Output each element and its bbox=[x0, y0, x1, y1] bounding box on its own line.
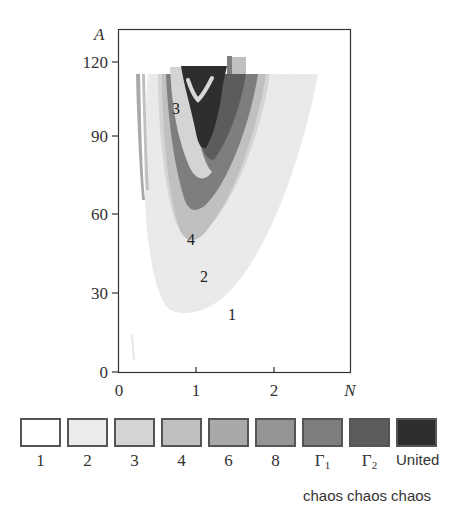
y-tick-120: 120 bbox=[83, 53, 109, 72]
chaos-label-united: chaos bbox=[391, 487, 431, 504]
gamma-subscript: 2 bbox=[372, 459, 378, 471]
legend-swatch-2 bbox=[67, 418, 108, 447]
x-axis bbox=[196, 367, 274, 372]
legend-swatch-3 bbox=[114, 418, 155, 447]
legend-swatch-6 bbox=[208, 418, 249, 447]
legend-label-8: 8 bbox=[255, 451, 296, 471]
annotation-3: 3 bbox=[172, 100, 180, 117]
legend-label-4: 4 bbox=[161, 451, 202, 471]
y-tick-60: 60 bbox=[91, 205, 108, 224]
gamma-subscript: 1 bbox=[325, 459, 331, 471]
legend: 1 2 3 4 6 8 Γ1 Γ2 United bbox=[20, 418, 476, 471]
legend-swatch-1 bbox=[20, 418, 61, 447]
legend-label-1: 1 bbox=[20, 451, 61, 471]
y-tick-90: 90 bbox=[91, 127, 108, 146]
chart: 120 90 60 30 0 A 0 1 2 N 3 4 2 1 bbox=[0, 0, 476, 405]
legend-swatch-gamma2 bbox=[349, 418, 390, 447]
legend-swatch-united bbox=[396, 418, 437, 447]
legend-swatches bbox=[20, 418, 476, 447]
y-axis-title: A bbox=[93, 25, 105, 44]
chaos-label-gamma1: chaos bbox=[303, 487, 343, 504]
legend-label-gamma2: Γ2 bbox=[349, 451, 390, 471]
legend-swatch-gamma1 bbox=[302, 418, 343, 447]
legend-label-united: United bbox=[396, 451, 437, 471]
legend-chaos-labels: chaoschaoschaos bbox=[303, 487, 435, 504]
y-tick-30: 30 bbox=[91, 284, 108, 303]
chaos-label-gamma2: chaos bbox=[347, 487, 387, 504]
legend-swatch-4 bbox=[161, 418, 202, 447]
legend-swatch-8 bbox=[255, 418, 296, 447]
y-axis bbox=[112, 62, 118, 372]
legend-label-6: 6 bbox=[208, 451, 249, 471]
gamma-symbol: Γ bbox=[362, 451, 372, 470]
annotation-4: 4 bbox=[187, 231, 195, 248]
legend-label-3: 3 bbox=[114, 451, 155, 471]
stray-mark bbox=[132, 335, 134, 360]
legend-labels: 1 2 3 4 6 8 Γ1 Γ2 United bbox=[20, 451, 476, 471]
region-spike-1 bbox=[227, 56, 232, 74]
x-tick-2: 2 bbox=[270, 381, 279, 400]
x-axis-title: N bbox=[343, 381, 357, 400]
region-spike-2 bbox=[232, 57, 246, 74]
y-tick-0: 0 bbox=[100, 363, 109, 382]
gamma-symbol: Γ bbox=[315, 451, 325, 470]
x-tick-0: 0 bbox=[115, 381, 124, 400]
x-tick-1: 1 bbox=[192, 381, 201, 400]
legend-label-2: 2 bbox=[67, 451, 108, 471]
plot-regions bbox=[132, 56, 318, 360]
annotation-1: 1 bbox=[228, 306, 236, 323]
annotation-2: 2 bbox=[200, 268, 208, 285]
legend-label-gamma1: Γ1 bbox=[302, 451, 343, 471]
